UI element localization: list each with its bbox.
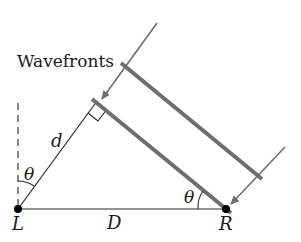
label-d: d: [51, 130, 63, 151]
wavefront-lower: [92, 99, 231, 213]
wavefront-upper: [121, 63, 262, 179]
label-D: D: [106, 212, 122, 233]
label-R: R: [218, 213, 233, 234]
theta-arc-right: [198, 191, 203, 209]
point-L-dot: [14, 205, 22, 213]
label-L: L: [11, 213, 24, 234]
point-R-dot: [222, 205, 230, 213]
wavefronts-label: Wavefronts: [17, 51, 114, 71]
label-theta-left: θ: [24, 164, 34, 184]
ray-arrow-right: [231, 147, 285, 204]
path-difference-line-d: [18, 101, 97, 209]
wavefront-diagram: Wavefronts d θ θ L D R: [0, 0, 301, 242]
label-theta-right: θ: [184, 187, 194, 207]
